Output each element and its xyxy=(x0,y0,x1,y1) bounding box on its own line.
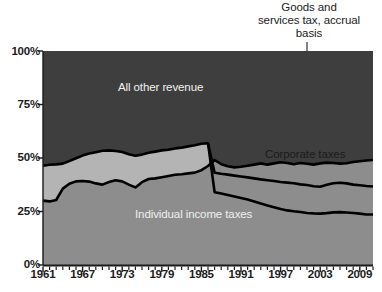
x-axis-labels: 1961 1967 1973 1979 1985 1991 1997 2003 … xyxy=(0,268,382,284)
y-axis-label-50: 50% xyxy=(0,151,40,163)
series-label-all-other-revenue: All other revenue xyxy=(118,81,203,93)
chart-plot-area xyxy=(0,0,382,292)
x-axis-label-2009: 2009 xyxy=(337,268,382,280)
source-caption xyxy=(44,284,378,292)
y-axis-label-100: 100% xyxy=(0,45,40,57)
series-label-individual-income-taxes: Individual income taxes xyxy=(135,208,252,220)
y-axis-label-75: 75% xyxy=(0,98,40,110)
y-axis-labels: 100% 75% 50% 25% 0% xyxy=(0,0,40,292)
y-axis-label-25: 25% xyxy=(0,205,40,217)
series-label-corporate-taxes: Corporate taxes xyxy=(265,148,345,160)
stacked-area-chart-figure: Goods and services tax, accrual basis xyxy=(0,0,382,292)
